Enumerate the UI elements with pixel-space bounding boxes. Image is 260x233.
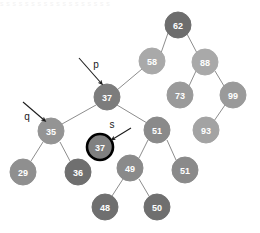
tree-node[interactable]: 50 — [144, 194, 170, 220]
tree-edge — [167, 140, 176, 160]
diagram-canvas: s s s s s s s s s s s s s s s s s s 6258… — [0, 0, 260, 233]
node-value-label: 99 — [228, 91, 238, 101]
pointer-label: s — [110, 119, 115, 130]
tree-node[interactable]: 93 — [193, 117, 219, 143]
tree-node[interactable]: 88 — [192, 49, 218, 75]
tree-node-highlighted[interactable]: 37 — [87, 134, 113, 160]
node-value-label: 36 — [73, 168, 83, 178]
node-value-label: 50 — [152, 203, 162, 213]
tree-node[interactable]: 35 — [38, 118, 64, 144]
binary-search-tree-diagram: 62588837739935519337293649514850 pqs — [0, 0, 260, 233]
tree-edge — [214, 105, 225, 121]
node-value-label: 62 — [173, 21, 183, 31]
pointer-q: q — [23, 102, 44, 122]
node-value-label: 29 — [18, 168, 28, 178]
tree-nodes: 62588837739935519337293649514850 — [10, 12, 246, 220]
tree-node[interactable]: 58 — [139, 48, 165, 74]
node-value-label: 51 — [152, 126, 162, 136]
tree-edge — [112, 179, 123, 196]
node-value-label: 73 — [175, 91, 185, 101]
tree-node[interactable]: 48 — [92, 194, 118, 220]
tree-edge — [187, 34, 197, 53]
tree-node[interactable]: 73 — [167, 82, 193, 108]
node-value-label: 37 — [95, 143, 105, 153]
tree-node[interactable]: 36 — [65, 159, 91, 185]
tree-edge — [31, 142, 43, 161]
tree-edge — [117, 105, 147, 123]
pointer-arrow-icon — [113, 128, 131, 139]
node-value-label: 35 — [46, 127, 56, 137]
tree-node[interactable]: 29 — [10, 159, 36, 185]
tree-edge — [117, 69, 142, 90]
tree-edge — [139, 140, 148, 158]
node-value-label: 37 — [102, 93, 112, 103]
tree-edge — [139, 179, 149, 196]
tree-node[interactable]: 51 — [144, 117, 170, 143]
node-value-label: 49 — [125, 164, 135, 174]
tree-node[interactable]: 51 — [172, 157, 198, 183]
pointer-s: s — [110, 119, 132, 140]
node-value-label: 93 — [201, 126, 211, 136]
tree-edge — [62, 105, 96, 124]
tree-edge — [215, 71, 224, 86]
tree-node[interactable]: 37 — [94, 84, 120, 110]
pointer-label: p — [93, 59, 99, 70]
node-value-label: 58 — [147, 57, 157, 67]
tree-node[interactable]: 62 — [165, 12, 191, 38]
node-value-label: 51 — [180, 166, 190, 176]
node-value-label: 48 — [100, 203, 110, 213]
tree-edge — [189, 71, 196, 86]
tree-edge — [60, 142, 70, 161]
tree-node[interactable]: 49 — [117, 155, 143, 181]
pointer-label: q — [24, 111, 30, 122]
tree-edge — [161, 33, 168, 53]
pointer-p: p — [79, 58, 101, 83]
tree-node[interactable]: 99 — [220, 82, 246, 108]
node-value-label: 88 — [200, 58, 210, 68]
